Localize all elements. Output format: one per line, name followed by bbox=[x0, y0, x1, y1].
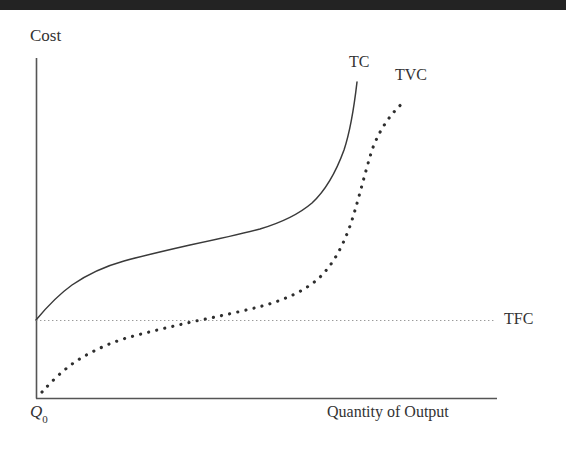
origin-quantity-subscript: 0 bbox=[42, 413, 48, 425]
origin-quantity-symbol: Q bbox=[30, 402, 42, 421]
x-axis-label: Quantity of Output bbox=[327, 404, 449, 420]
y-axis-label: Cost bbox=[30, 27, 61, 44]
tvc-curve-label: TVC bbox=[395, 67, 427, 83]
tc-curve-label: TC bbox=[349, 54, 369, 70]
tfc-line-label: TFC bbox=[504, 311, 533, 327]
plot-canvas bbox=[0, 0, 566, 454]
origin-quantity-label: Q0 bbox=[30, 403, 48, 423]
cost-curves-figure: Cost Quantity of Output TC TVC TFC Q0 bbox=[0, 0, 566, 454]
tvc-curve bbox=[42, 100, 406, 392]
tc-curve bbox=[36, 82, 357, 320]
